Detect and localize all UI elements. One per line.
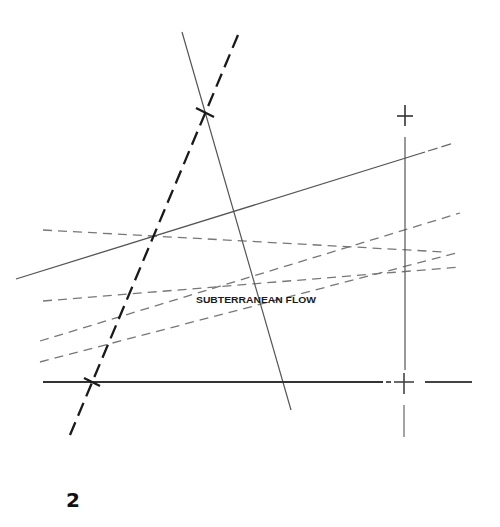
solid-rising-line <box>16 152 425 279</box>
plus-marker-bottom-right <box>394 373 414 394</box>
dashed-line-3 <box>40 213 460 341</box>
plus-marker-top-right <box>397 105 413 126</box>
thin-diagonal <box>182 32 291 410</box>
subterranean-flow-label: SUBTERRANEAN FLOW <box>196 294 316 305</box>
figure-number: 2 <box>66 488 80 512</box>
subterranean-flow-diagram: SUBTERRANEAN FLOW <box>0 0 500 527</box>
heavy-dashed-diagonal <box>70 35 238 435</box>
solid-rising-line-extension <box>428 143 454 151</box>
